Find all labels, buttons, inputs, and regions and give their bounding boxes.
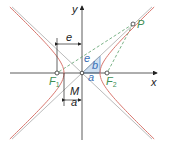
- point-p-label: P: [137, 18, 145, 30]
- y-axis-label: y: [71, 3, 79, 15]
- x-axis-label: x: [150, 76, 157, 88]
- center-point: [80, 71, 84, 75]
- triangle-e-label: e: [84, 52, 90, 64]
- dimension-a-label: a: [71, 96, 77, 108]
- triangle-b-label: b: [92, 59, 98, 71]
- dimension-e-label: e: [66, 31, 72, 43]
- focus-2-label: F2: [106, 75, 117, 88]
- triangle-a-label: a: [88, 71, 94, 83]
- focus-1-label: F1: [49, 75, 60, 88]
- point-p: [131, 22, 135, 26]
- hyperbola-diagram: y x P F1 F2 M e a e b a: [0, 0, 169, 143]
